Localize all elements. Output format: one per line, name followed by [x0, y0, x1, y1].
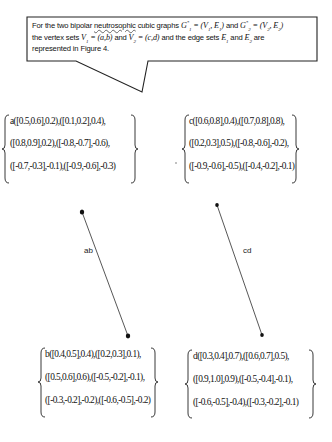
- vertex-d-row-1: d([0.3,0.4],0.7),([0.6,0.7],0.5),: [193, 351, 289, 361]
- vertex-b-row-3: ([-0.3,-0.2],-0.2),([-0.6,-0.5],-0.2): [45, 395, 150, 405]
- stray-mark: [175, 162, 176, 163]
- text-segment: and the edge sets: [159, 33, 221, 42]
- text-segment: the vertex sets: [32, 33, 81, 42]
- vertex-b-row-1: b([0.4,0.5],0.4),([0.2,0.3],0.1),: [45, 349, 141, 359]
- vertex-node-c: [215, 203, 219, 207]
- vertex-node-a: [80, 209, 84, 214]
- edge-label-ab: ab: [84, 246, 93, 255]
- vertex-a-row-3: ([-0.7,-0.3],-0.1),([-0.9,-0.6],-0.3): [10, 161, 115, 171]
- math-g2: G*2 = (V2, E2): [240, 21, 283, 30]
- text-segment: and: [228, 33, 244, 42]
- text-segment: are: [252, 33, 265, 42]
- vertex-node-d: [260, 333, 264, 337]
- text-segment: cubic graphs: [136, 21, 181, 30]
- callout-line-1: For the two bipolar neutrosophic cubic g…: [32, 20, 314, 32]
- math-e2: E2: [245, 33, 252, 42]
- vertex-d-row-2: ([0.9,1.0],0.9),([-0.5,-0.4],-0.1),: [193, 374, 292, 384]
- vertex-node-b: [126, 334, 130, 339]
- vertex-c-row-3: ([-0.9,-0.6],-0.5),([-0.4,-0.2],-0.1): [189, 161, 294, 171]
- vertex-b-row-2: ([0.5,0.6],0.6),([-0.5,-0.2],-0.1),: [45, 372, 144, 382]
- math-g1: G*1 = (V1, E1): [181, 21, 224, 30]
- edge-ab: [82, 212, 128, 336]
- vertex-d-row-3: ([-0.6,-0.5],-0.4),([-0.3,-0.2],-0.1): [193, 397, 298, 407]
- callout-text: For the two bipolar neutrosophic cubic g…: [32, 20, 314, 55]
- math-v1: V1 = (a,b): [81, 33, 112, 42]
- edge-label-cd: cd: [243, 246, 251, 255]
- text-segment: and: [224, 21, 240, 30]
- underlined-word: neutrosophic: [94, 21, 136, 30]
- text-segment: and: [112, 33, 128, 42]
- vertex-a-row-2: ([0.8,0.9],0.2),([-0.8,-0.7],-0.6),: [10, 138, 109, 148]
- text-segment: For the two bipolar: [32, 21, 94, 30]
- math-v2: V2 = (c,d): [129, 33, 160, 42]
- edge-cd: [217, 205, 262, 335]
- vertex-a-row-1: a([0.5,0.6],0.2),([0.1,0.2],0.4),: [10, 116, 105, 126]
- vertex-c-row-2: ([0.2,0.3],0.5),([-0.8,-0.6],-0.2),: [189, 138, 288, 148]
- callout-line-3: represented in Figure 4.: [32, 43, 314, 55]
- vertex-c-row-1: c([0.6,0.8],0.4),([0.7,0.8],0.8),: [189, 116, 284, 126]
- callout-line-2: the vertex sets V1 = (a,b) and V2 = (c,d…: [32, 32, 314, 44]
